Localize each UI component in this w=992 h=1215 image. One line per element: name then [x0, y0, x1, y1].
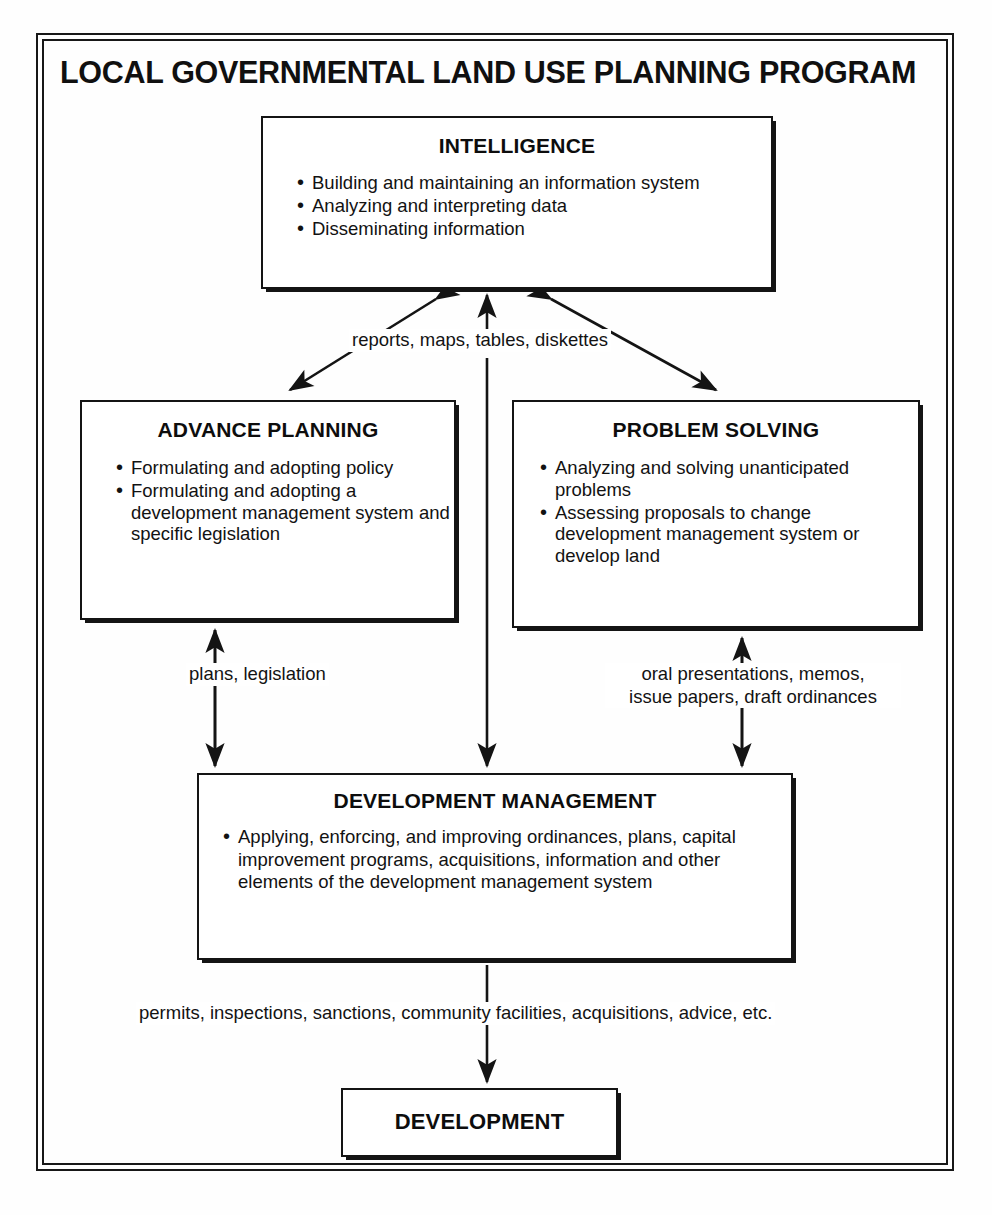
connector-label-problem-solving-flow: oral presentations, memos, issue papers,… [605, 663, 901, 708]
node-problem-solving-title: PROBLEM SOLVING [514, 418, 918, 442]
node-development-management-title: DEVELOPMENT MANAGEMENT [199, 789, 791, 813]
list-item: Formulating and adopting a development m… [116, 480, 454, 545]
connector-label-development-flow: permits, inspections, sanctions, communi… [136, 1002, 775, 1025]
connector-label-problem-solving-line2: issue papers, draft ordinances [608, 686, 898, 709]
node-advance-planning-title: ADVANCE PLANNING [82, 418, 454, 442]
node-problem-solving[interactable]: PROBLEM SOLVING Analyzing and solving un… [512, 400, 920, 628]
node-intelligence-list: Building and maintaining an information … [297, 172, 771, 239]
list-item: Building and maintaining an information … [297, 172, 771, 194]
node-development-management[interactable]: DEVELOPMENT MANAGEMENT Applying, enforci… [197, 773, 793, 960]
node-development[interactable]: DEVELOPMENT [341, 1088, 618, 1157]
list-item: Analyzing and solving unanticipated prob… [540, 457, 918, 501]
node-intelligence[interactable]: INTELLIGENCE Building and maintaining an… [261, 116, 773, 289]
node-advance-planning-list: Formulating and adopting policy Formulat… [116, 457, 454, 545]
node-development-management-list: Applying, enforcing, and improving ordin… [223, 826, 791, 894]
list-item: Disseminating information [297, 218, 771, 240]
list-item: Analyzing and interpreting data [297, 195, 771, 217]
connector-label-advance-planning-flow: plans, legislation [186, 663, 329, 686]
connector-label-intelligence-flow: reports, maps, tables, diskettes [349, 329, 611, 352]
page-title: LOCAL GOVERNMENTAL LAND USE PLANNING PRO… [60, 55, 940, 90]
node-advance-planning[interactable]: ADVANCE PLANNING Formulating and adoptin… [80, 400, 456, 620]
node-problem-solving-list: Analyzing and solving unanticipated prob… [540, 457, 918, 567]
list-item: Assessing proposals to change developmen… [540, 502, 918, 567]
connector-label-problem-solving-line1: oral presentations, memos, [608, 663, 898, 686]
list-item: Applying, enforcing, and improving ordin… [223, 826, 791, 894]
node-development-title: DEVELOPMENT [343, 1109, 616, 1135]
list-item: Formulating and adopting policy [116, 457, 454, 479]
diagram-page: LOCAL GOVERNMENTAL LAND USE PLANNING PRO… [0, 0, 992, 1215]
node-intelligence-title: INTELLIGENCE [263, 134, 771, 158]
